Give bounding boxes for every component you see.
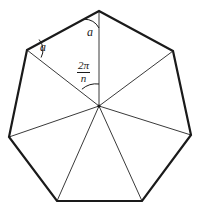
fraction-denominator: n xyxy=(77,73,90,84)
radius-line-v4 xyxy=(57,106,99,201)
radius-line-v5 xyxy=(9,106,99,137)
angle-label-a-top: a xyxy=(87,26,93,38)
fraction-2pi-over-n: 2π n xyxy=(77,60,90,84)
fraction-numerator: 2π xyxy=(77,60,90,71)
angle-label-a-left: a xyxy=(40,41,46,53)
central-angle-label: 2π n xyxy=(77,60,90,84)
center-point xyxy=(97,104,100,107)
geometry-figure: a a 2π n xyxy=(0,0,198,211)
central-angle-arc xyxy=(82,84,99,89)
radius-line-v1 xyxy=(99,51,173,106)
heptagon-diagram-svg xyxy=(0,0,198,211)
radius-line-v2 xyxy=(99,106,191,135)
radius-line-v3 xyxy=(99,106,142,201)
